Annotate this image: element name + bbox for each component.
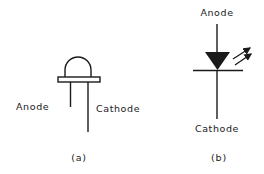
caption-b: (b) [211, 152, 227, 163]
panel-a: Anode Cathode (a) [16, 57, 140, 163]
led-diagram: Anode Cathode (a) Anode Cathode (b) [0, 0, 264, 174]
led-rim [58, 77, 100, 82]
caption-a: (a) [71, 152, 87, 163]
led-dome [65, 57, 91, 77]
anode-label-a: Anode [16, 101, 49, 112]
light-emission-arrow-icon [233, 48, 250, 59]
panel-b: Anode Cathode (b) [193, 7, 251, 163]
diode-triangle [205, 52, 230, 70]
cathode-label-a: Cathode [96, 103, 140, 114]
cathode-label-b: Cathode [195, 123, 239, 134]
anode-label-b: Anode [200, 7, 233, 18]
